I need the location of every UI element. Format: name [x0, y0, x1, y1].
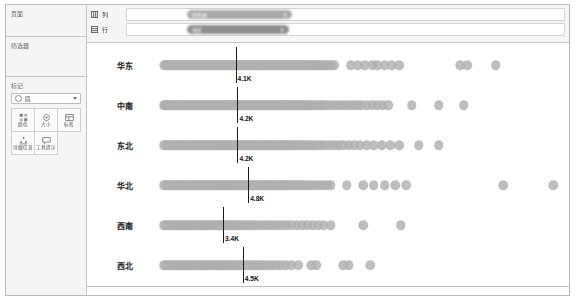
data-point[interactable]	[463, 60, 473, 70]
reference-line-label: 4.5K	[245, 275, 259, 282]
columns-pill-label: 销售额	[192, 11, 207, 18]
dot-plot: 华东4.1K中南4.2K东北4.2K华北4.8K西南3.4K西北4.5K	[87, 43, 569, 295]
data-point[interactable]	[394, 140, 404, 150]
data-point[interactable]	[491, 60, 501, 70]
marks-shape-select-value: 圆	[25, 95, 70, 103]
data-point[interactable]	[401, 180, 411, 190]
rows-shelf[interactable]: 行 地区	[91, 23, 565, 36]
window-frame: 页面 筛选器 标记 圆	[5, 4, 570, 296]
rows-pill-label: 地区	[192, 26, 202, 33]
row-label-中南: 中南	[103, 100, 147, 111]
marks-button-color-label: 颜色	[18, 123, 28, 128]
reference-line-label: 4.8K	[250, 195, 264, 202]
data-point[interactable]	[394, 60, 404, 70]
row-label-西北: 西北	[103, 260, 147, 271]
data-point[interactable]	[434, 140, 444, 150]
reference-line-label: 4.1K	[238, 75, 252, 82]
data-point[interactable]	[459, 100, 469, 110]
data-point[interactable]	[396, 220, 406, 230]
marks-buttons-grid: 颜色 大小	[11, 108, 81, 155]
pill-caret-icon[interactable]	[281, 27, 284, 33]
data-point[interactable]	[384, 100, 394, 110]
marks-button-label-label: 标签	[64, 123, 74, 128]
marks-grid-spacer	[58, 132, 81, 155]
marks-button-label[interactable]: 标签	[58, 109, 81, 132]
data-point[interactable]	[407, 100, 417, 110]
data-point[interactable]	[294, 260, 304, 270]
columns-shelf-label: 列	[102, 10, 122, 19]
reference-line[interactable]	[237, 87, 238, 123]
reference-line[interactable]	[248, 167, 249, 203]
marks-button-detail-label: 详细信息	[13, 146, 33, 151]
left-panel: 页面 筛选器 标记 圆	[6, 5, 87, 295]
reference-line-label: 4.2K	[239, 115, 253, 122]
chevron-down-icon[interactable]	[73, 97, 77, 100]
data-point[interactable]	[358, 180, 368, 190]
data-point[interactable]	[326, 220, 336, 230]
chart-pane[interactable]: 华东4.1K中南4.2K东北4.2K华北4.8K西南3.4K西北4.5K	[87, 43, 569, 295]
columns-icon	[91, 11, 98, 18]
size-icon	[42, 113, 51, 122]
tooltip-icon	[42, 136, 51, 145]
marks-button-size[interactable]: 大小	[35, 109, 58, 132]
reference-line[interactable]	[236, 47, 237, 83]
data-point[interactable]	[434, 100, 444, 110]
reference-line-label: 4.2K	[239, 155, 253, 162]
detail-icon	[19, 136, 28, 145]
rows-pill[interactable]: 地区	[187, 25, 289, 34]
x-axis-line	[87, 286, 569, 287]
columns-pill[interactable]: 销售额	[187, 10, 292, 19]
data-point[interactable]	[549, 180, 559, 190]
marks-card: 标记 圆 颜色	[6, 77, 86, 161]
pages-card-title: 页面	[11, 9, 81, 18]
marks-shape-select[interactable]: 圆	[11, 93, 81, 104]
marks-button-size-label: 大小	[41, 123, 51, 128]
data-point[interactable]	[344, 260, 354, 270]
row-label-东北: 东北	[103, 140, 147, 151]
reference-line[interactable]	[223, 207, 224, 243]
data-point[interactable]	[391, 180, 401, 190]
columns-shelf-dropzone[interactable]: 销售额	[126, 8, 565, 21]
data-point[interactable]	[312, 260, 322, 270]
label-icon	[65, 113, 74, 122]
reference-line-label: 3.4K	[225, 235, 239, 242]
rows-icon	[91, 26, 98, 33]
shelves-area: 列 销售额 行 地区	[87, 5, 569, 43]
marks-button-tooltip[interactable]: 工具提示	[35, 132, 58, 155]
data-point[interactable]	[342, 180, 352, 190]
color-icon	[19, 113, 28, 122]
row-label-西南: 西南	[103, 220, 147, 231]
data-point[interactable]	[326, 180, 336, 190]
row-label-华北: 华北	[103, 180, 147, 191]
data-point[interactable]	[498, 180, 508, 190]
data-point[interactable]	[414, 140, 424, 150]
reference-line[interactable]	[237, 127, 238, 163]
data-point[interactable]	[330, 60, 340, 70]
marks-button-detail[interactable]: 详细信息	[12, 132, 35, 155]
circle-icon	[15, 95, 22, 102]
data-point[interactable]	[366, 260, 376, 270]
filters-card[interactable]: 筛选器	[6, 37, 86, 77]
marks-button-tooltip-label: 工具提示	[36, 146, 56, 151]
rows-shelf-label: 行	[102, 25, 122, 34]
data-point[interactable]	[380, 180, 390, 190]
filters-card-title: 筛选器	[11, 41, 81, 50]
columns-shelf[interactable]: 列 销售额	[91, 8, 565, 21]
screenshot-root: 页面 筛选器 标记 圆	[0, 0, 575, 300]
pill-caret-icon[interactable]	[284, 12, 287, 18]
data-point[interactable]	[369, 180, 379, 190]
marks-button-color[interactable]: 颜色	[12, 109, 35, 132]
pages-card[interactable]: 页面	[6, 5, 86, 37]
data-point[interactable]	[358, 220, 368, 230]
marks-card-title: 标记	[11, 81, 81, 90]
rows-shelf-dropzone[interactable]: 地区	[126, 23, 565, 36]
reference-line[interactable]	[243, 247, 244, 283]
row-label-华东: 华东	[103, 60, 147, 71]
